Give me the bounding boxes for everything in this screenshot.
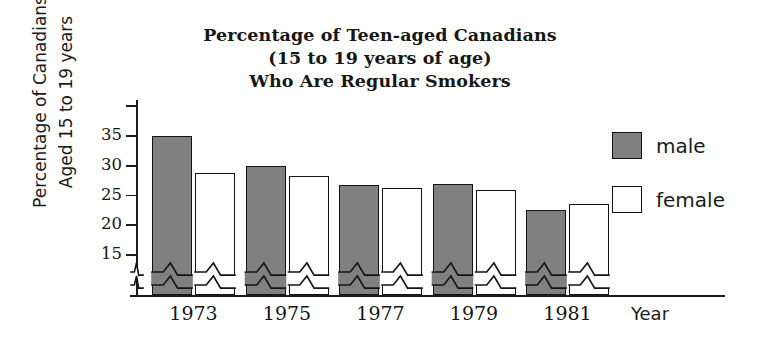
bar-1975-female xyxy=(289,176,329,295)
y-axis-tick xyxy=(126,254,137,256)
y-axis-tick xyxy=(126,224,137,226)
legend-item-female: female xyxy=(612,186,725,213)
legend-item-male: male xyxy=(612,132,706,159)
x-axis-tick-label: 1979 xyxy=(429,302,519,324)
legend-label-male: male xyxy=(656,134,706,158)
y-axis-tick-label: 20 xyxy=(82,216,122,233)
y-axis-tick-label: 25 xyxy=(82,187,122,204)
x-axis-tick-label: 1981 xyxy=(523,302,613,324)
x-axis-line xyxy=(130,295,725,297)
bar-1977-female xyxy=(382,188,422,295)
y-axis-tick xyxy=(126,165,137,167)
bar-1973-male xyxy=(152,136,192,295)
y-axis-tick xyxy=(126,135,137,137)
bar-1979-male xyxy=(433,184,473,295)
legend-swatch-male-icon xyxy=(612,132,642,159)
x-axis-tick-label: 1977 xyxy=(336,302,426,324)
y-axis-tick-label: 35 xyxy=(82,127,122,144)
bar-1973-female xyxy=(195,173,235,295)
bar-1981-female xyxy=(569,204,609,295)
legend-swatch-female-icon xyxy=(612,186,642,213)
axis-break-notches xyxy=(0,0,757,354)
chart-figure: Percentage of Teen-aged Canadians (15 to… xyxy=(0,0,757,354)
bar-1981-male xyxy=(526,210,566,295)
bar-1979-female xyxy=(476,190,516,295)
y-axis-tick-label: 15 xyxy=(82,246,122,263)
x-axis-tick-label: 1973 xyxy=(149,302,239,324)
bar-1975-male xyxy=(246,166,286,295)
y-axis-tick-label: 30 xyxy=(82,157,122,174)
plot-area: 3530252015 19731975197719791981 Year xyxy=(0,0,757,354)
y-axis-tick xyxy=(126,105,137,107)
bar-1977-male xyxy=(339,185,379,295)
x-axis-tick-label: 1975 xyxy=(242,302,332,324)
y-axis-tick xyxy=(126,195,137,197)
x-axis-label: Year xyxy=(600,303,700,324)
y-axis-line xyxy=(136,100,138,296)
legend-label-female: female xyxy=(656,188,725,212)
